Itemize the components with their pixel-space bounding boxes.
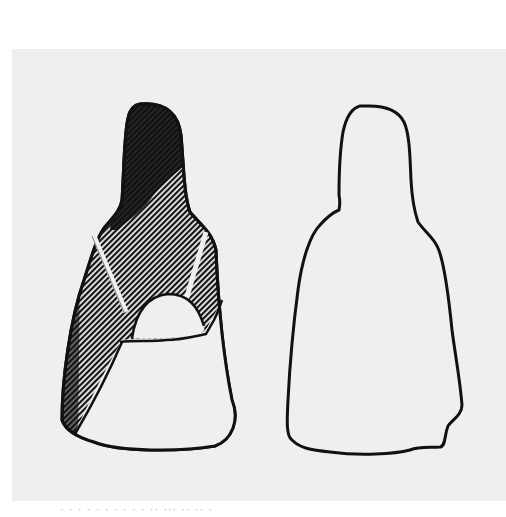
- right-figurine: [287, 106, 462, 454]
- left-figurine: [60, 100, 235, 450]
- figure-plate: [12, 49, 506, 501]
- figure-drawing: [0, 0, 506, 517]
- figure-caption: · · · · · · · · · · ·· ··· ·· ·· ·: [60, 505, 320, 517]
